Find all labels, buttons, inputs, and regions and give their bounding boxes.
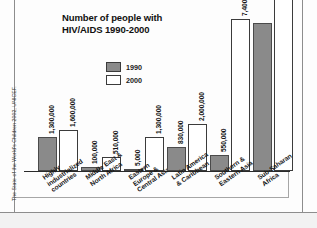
bar-value-1990-highly-industrialized-countries: 1,300,000 bbox=[48, 105, 55, 134]
bar-group-sub-saharan-africa: 7,000,000 Sub-Saharan Africa bbox=[253, 0, 295, 171]
bar-value-2000-latin-america-caribbean: 2,000,000 bbox=[198, 92, 205, 121]
source-credit: The State of the World's Children 2002, … bbox=[11, 51, 17, 201]
page-bottom-band bbox=[0, 213, 317, 228]
bar-2000-sub-saharan-africa bbox=[274, 0, 293, 171]
bar-value-1990-eastern-europe-central-asia: 5,000 bbox=[134, 150, 141, 166]
bar-value-2000-eastern-europe-central-asia: 1,300,000 bbox=[155, 105, 162, 134]
bar-value-1990-latin-america-caribbean: 830,000 bbox=[177, 121, 184, 145]
page-frame-line-right bbox=[302, 0, 303, 212]
plot-area: 1,300,000 1,600,000 Highly industrialize… bbox=[24, 0, 290, 172]
bar-1990-sub-saharan-africa: 7,000,000 bbox=[253, 23, 272, 171]
bar-value-1990-middle-east-north-africa: 100,000 bbox=[91, 141, 98, 165]
bar-group-middle-east-north-africa: 100,000 510,000 Middle East & North Afri… bbox=[81, 0, 123, 171]
bar-value-2000-highly-industrialized-countries: 1,600,000 bbox=[69, 98, 76, 127]
bar-value-1990-southern-eastern-asia: 550,000 bbox=[220, 129, 227, 153]
bar-value-2000-southern-eastern-asia: 7,400,000 bbox=[241, 0, 248, 16]
bar-group-latin-america-caribbean: 830,000 2,000,000 Latin America & Caribb… bbox=[167, 0, 209, 171]
chart-figure: The State of the World's Children 2002, … bbox=[0, 0, 317, 228]
bar-group-eastern-europe-central-asia: 5,000 1,300,000 Eastern Europe & Central… bbox=[124, 0, 166, 171]
bar-2000-southern-eastern-asia: 7,400,000 bbox=[231, 19, 250, 171]
page-frame-line-bottom-inner bbox=[14, 197, 289, 198]
bar-group-highly-industrialized-countries: 1,300,000 1,600,000 Highly industrialize… bbox=[38, 0, 80, 171]
bar-group-southern-eastern-asia: 550,000 7,400,000 Southern & Eastern Asi… bbox=[210, 0, 252, 171]
